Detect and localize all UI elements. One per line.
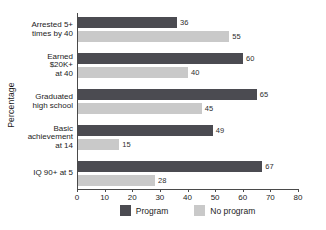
chart-row: Basic achievement at 144915 xyxy=(0,125,326,150)
x-tick-mark xyxy=(188,189,189,192)
x-tick-label: 0 xyxy=(75,193,79,202)
chart-legend: ProgramNo program xyxy=(77,205,298,216)
legend-label: Program xyxy=(136,206,169,216)
category-label: IQ 90+ at 5 xyxy=(0,169,78,178)
x-tick-label: 30 xyxy=(155,193,164,202)
bar-program xyxy=(78,53,243,64)
x-tick-label: 60 xyxy=(238,193,247,202)
x-tick-mark xyxy=(298,189,299,192)
bar-value-label: 15 xyxy=(122,140,130,149)
bar-line: 49 xyxy=(78,125,298,136)
bar-chart-figure: Percentage Arrested 5+ times by 403655Ea… xyxy=(0,0,326,230)
bar-line: 65 xyxy=(78,89,298,100)
bar-line: 28 xyxy=(78,175,298,186)
legend-swatch xyxy=(194,205,205,216)
bar-value-label: 60 xyxy=(246,54,254,63)
x-tick-mark xyxy=(160,189,161,192)
legend-swatch xyxy=(120,205,131,216)
x-tick-label: 10 xyxy=(100,193,109,202)
bar-line: 15 xyxy=(78,139,298,150)
x-tick-mark xyxy=(243,189,244,192)
x-tick-label: 70 xyxy=(266,193,275,202)
bar-line: 40 xyxy=(78,67,298,78)
bar-value-label: 65 xyxy=(260,90,268,99)
bar-program xyxy=(78,17,177,28)
x-tick-mark xyxy=(270,189,271,192)
bar-line: 45 xyxy=(78,103,298,114)
bar-line: 36 xyxy=(78,17,298,28)
x-tick-mark xyxy=(77,189,78,192)
bar-value-label: 28 xyxy=(158,176,166,185)
bar-group: 6040 xyxy=(78,53,298,78)
bar-program xyxy=(78,125,213,136)
bar-value-label: 36 xyxy=(180,18,188,27)
bar-value-label: 40 xyxy=(191,68,199,77)
x-axis-ticks: 01020304050607080 xyxy=(77,189,298,203)
legend-item-program: Program xyxy=(120,205,169,216)
bar-group: 3655 xyxy=(78,17,298,42)
bar-no-program xyxy=(78,103,202,114)
x-tick-label: 80 xyxy=(294,193,303,202)
bar-value-label: 49 xyxy=(216,126,224,135)
chart-row: IQ 90+ at 56728 xyxy=(0,161,326,186)
x-tick-mark xyxy=(105,189,106,192)
bar-group: 6728 xyxy=(78,161,298,186)
bar-program xyxy=(78,161,262,172)
x-tick-label: 20 xyxy=(128,193,137,202)
x-tick-label: 40 xyxy=(183,193,192,202)
bar-line: 55 xyxy=(78,31,298,42)
bar-group: 6545 xyxy=(78,89,298,114)
x-tick-mark xyxy=(132,189,133,192)
legend-label: No program xyxy=(210,206,255,216)
category-label: Basic achievement at 14 xyxy=(0,125,78,151)
bar-no-program xyxy=(78,139,119,150)
bar-line: 60 xyxy=(78,53,298,64)
bar-no-program xyxy=(78,67,188,78)
bar-program xyxy=(78,89,257,100)
bar-value-label: 55 xyxy=(232,32,240,41)
legend-item-no-program: No program xyxy=(194,205,255,216)
bar-value-label: 67 xyxy=(265,162,273,171)
chart-row: Graduated high school6545 xyxy=(0,89,326,114)
x-tick-label: 50 xyxy=(211,193,220,202)
bar-line: 67 xyxy=(78,161,298,172)
bar-no-program xyxy=(78,31,229,42)
category-label: Graduated high school xyxy=(0,93,78,110)
x-tick-mark xyxy=(215,189,216,192)
chart-row: Earned $20K+ at 406040 xyxy=(0,53,326,78)
chart-rows: Arrested 5+ times by 403655Earned $20K+ … xyxy=(0,17,326,197)
bar-group: 4915 xyxy=(78,125,298,150)
category-label: Earned $20K+ at 40 xyxy=(0,53,78,79)
bar-no-program xyxy=(78,175,155,186)
chart-row: Arrested 5+ times by 403655 xyxy=(0,17,326,42)
category-label: Arrested 5+ times by 40 xyxy=(0,21,78,38)
bar-value-label: 45 xyxy=(205,104,213,113)
